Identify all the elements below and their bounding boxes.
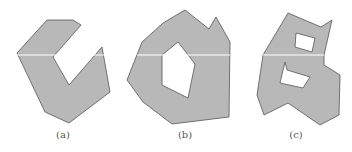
polygon-with-holes bbox=[127, 10, 230, 124]
panel-label-b: (b) bbox=[165, 129, 205, 140]
panel-label-c: (c) bbox=[276, 129, 316, 140]
polygon-panel-a bbox=[17, 20, 110, 123]
polygon-panel-b bbox=[127, 10, 230, 124]
polygon-with-holes bbox=[17, 20, 110, 123]
polygon-panel-c bbox=[257, 13, 340, 125]
polygon-with-holes bbox=[257, 13, 340, 125]
panel-label-a: (a) bbox=[43, 129, 83, 140]
